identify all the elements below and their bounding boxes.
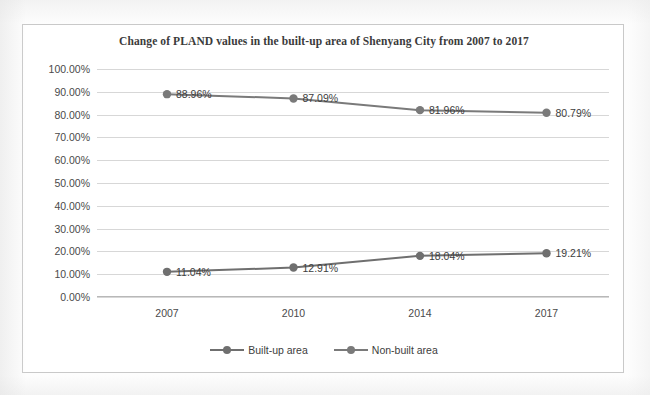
legend-item[interactable]: Built-up area (210, 344, 308, 356)
screenshot-page: Change of PLAND values in the built-up a… (0, 0, 650, 395)
y-axis-tick-label: 70.00% (54, 131, 90, 143)
series-line (167, 253, 547, 272)
y-axis-tick-label: 90.00% (54, 86, 90, 98)
data-point-marker (542, 249, 550, 257)
y-axis-tick-label: 100.00% (49, 63, 90, 75)
legend-marker-icon (210, 345, 244, 355)
y-axis-tick-label: 0.00% (60, 291, 90, 303)
data-label: 18.04% (429, 250, 465, 262)
data-label: 87.09% (303, 92, 339, 104)
y-axis-tick-label: 40.00% (54, 200, 90, 212)
data-label: 88.96% (176, 88, 212, 100)
series-line (167, 94, 547, 113)
plot-area: 100.00%90.00%80.00%70.00%60.00%50.00%40.… (97, 69, 609, 297)
x-axis-tick-label: 2014 (408, 307, 431, 319)
data-label: 11.04% (176, 266, 211, 278)
y-axis-tick-label: 30.00% (54, 223, 90, 235)
data-label: 80.79% (556, 107, 592, 119)
legend-label: Non-built area (372, 344, 438, 356)
chart-title: Change of PLAND values in the built-up a… (23, 35, 625, 47)
x-axis-tick-label: 2007 (155, 307, 178, 319)
legend-label: Built-up area (248, 344, 308, 356)
legend-dot (347, 346, 355, 354)
data-point-marker (416, 252, 424, 260)
data-point-marker (289, 263, 297, 271)
legend-dot (223, 346, 231, 354)
chart-figure: Change of PLAND values in the built-up a… (22, 24, 624, 373)
y-axis-tick-label: 60.00% (54, 154, 90, 166)
data-label: 19.21% (556, 247, 592, 259)
y-axis-tick-label: 10.00% (54, 268, 90, 280)
legend-marker-icon (334, 345, 368, 355)
y-axis-tick-label: 80.00% (54, 109, 90, 121)
x-axis-tick-label: 2010 (282, 307, 305, 319)
data-label: 12.91% (303, 262, 339, 274)
data-label: 81.96% (429, 104, 465, 116)
data-point-marker (163, 90, 171, 98)
legend-item[interactable]: Non-built area (334, 344, 438, 356)
data-point-marker (542, 109, 550, 117)
gridline (97, 297, 609, 298)
series-lines (97, 69, 609, 297)
data-point-marker (163, 268, 171, 276)
data-point-marker (289, 94, 297, 102)
data-point-marker (416, 106, 424, 114)
x-axis-tick-label: 2017 (535, 307, 558, 319)
y-axis-tick-label: 20.00% (54, 245, 90, 257)
chart-legend: Built-up areaNon-built area (23, 344, 625, 356)
y-axis-tick-label: 50.00% (54, 177, 90, 189)
